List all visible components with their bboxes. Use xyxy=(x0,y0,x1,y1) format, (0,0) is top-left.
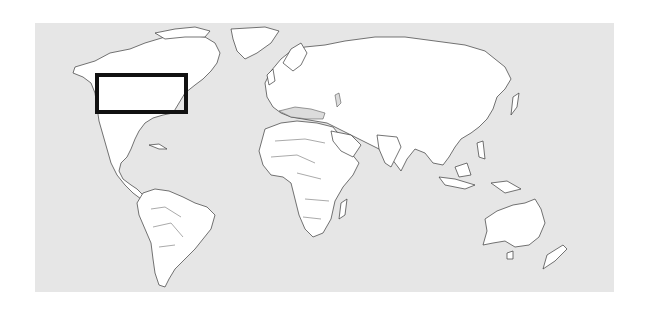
madagascar xyxy=(339,199,347,219)
borneo xyxy=(455,163,471,177)
japan xyxy=(511,93,519,115)
tasmania xyxy=(507,251,513,259)
new-zealand xyxy=(543,245,567,269)
cuba xyxy=(149,144,167,149)
world-map xyxy=(35,23,614,292)
north-america xyxy=(73,35,220,203)
greenland xyxy=(231,27,279,59)
world-map-graphic xyxy=(35,23,614,292)
highlight-rectangle xyxy=(95,73,188,114)
australia xyxy=(483,199,545,247)
indonesia xyxy=(439,177,475,189)
philippines xyxy=(477,141,485,159)
new-guinea xyxy=(491,181,521,193)
south-america xyxy=(137,189,215,287)
arctic-islands xyxy=(155,27,210,39)
